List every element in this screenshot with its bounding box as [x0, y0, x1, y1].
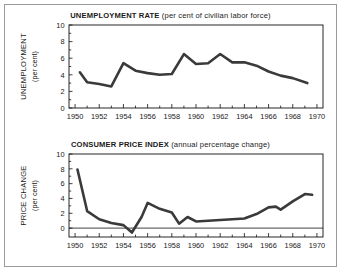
- chart-panel-cpi: CONSUMER PRICE INDEX (annual percentage …: [5, 136, 336, 266]
- x-tick-label: 1966: [260, 112, 276, 121]
- y-tick-label: 4: [60, 71, 64, 80]
- x-tick-label: 1964: [236, 241, 252, 250]
- x-tick-label: 1952: [91, 112, 107, 121]
- y-tick-label: 2: [60, 209, 64, 218]
- y-tick-label: 10: [56, 21, 64, 30]
- x-tick-label: 1954: [115, 241, 131, 250]
- x-tick-label: 1968: [285, 241, 301, 250]
- x-tick-label: 1962: [212, 241, 228, 250]
- x-tick-label: 1966: [260, 241, 276, 250]
- y-tick-label: 6: [60, 179, 64, 188]
- y-tick-label: 8: [60, 37, 64, 46]
- x-tick-label: 1964: [236, 112, 252, 121]
- data-series-line: [80, 54, 307, 86]
- y-tick-label: 10: [56, 150, 64, 159]
- y-tick-label: 2: [60, 87, 64, 96]
- chart-plot-unemployment: 0246810195019521954195619581960196219641…: [5, 7, 336, 137]
- x-tick-label: 1962: [212, 112, 228, 121]
- x-tick-label: 1958: [164, 112, 180, 121]
- chart-panel-unemployment: UNEMPLOYMENT RATE (per cent of civilian …: [5, 7, 336, 137]
- y-tick-label: 8: [60, 165, 64, 174]
- x-tick-label: 1970: [309, 112, 325, 121]
- y-tick-label: 6: [60, 54, 64, 63]
- y-axis-label-units: (per cent): [30, 180, 39, 211]
- x-tick-label: 1960: [188, 112, 204, 121]
- plot-box: [69, 25, 323, 108]
- chart-plot-cpi: 0246810195019521954195619581960196219641…: [5, 136, 336, 266]
- y-axis-label: UNEMPLOYMENT: [19, 33, 28, 100]
- x-tick-label: 1950: [67, 112, 83, 121]
- x-tick-label: 1970: [309, 241, 325, 250]
- x-tick-label: 1950: [67, 241, 83, 250]
- y-axis-label-units: (per cent): [30, 51, 39, 82]
- data-series-line: [77, 170, 312, 233]
- x-tick-label: 1952: [91, 241, 107, 250]
- y-tick-label: 0: [60, 224, 64, 233]
- y-axis-label: PRICE CHANGE: [19, 165, 28, 225]
- y-tick-label: 4: [60, 194, 64, 203]
- plot-box: [69, 154, 323, 237]
- x-tick-label: 1960: [188, 241, 204, 250]
- x-tick-label: 1956: [139, 112, 155, 121]
- x-tick-label: 1958: [164, 241, 180, 250]
- y-tick-label: 0: [60, 104, 64, 113]
- x-tick-label: 1968: [285, 112, 301, 121]
- figure-frame: UNEMPLOYMENT RATE (per cent of civilian …: [4, 4, 337, 267]
- x-tick-label: 1954: [115, 112, 131, 121]
- x-tick-label: 1956: [139, 241, 155, 250]
